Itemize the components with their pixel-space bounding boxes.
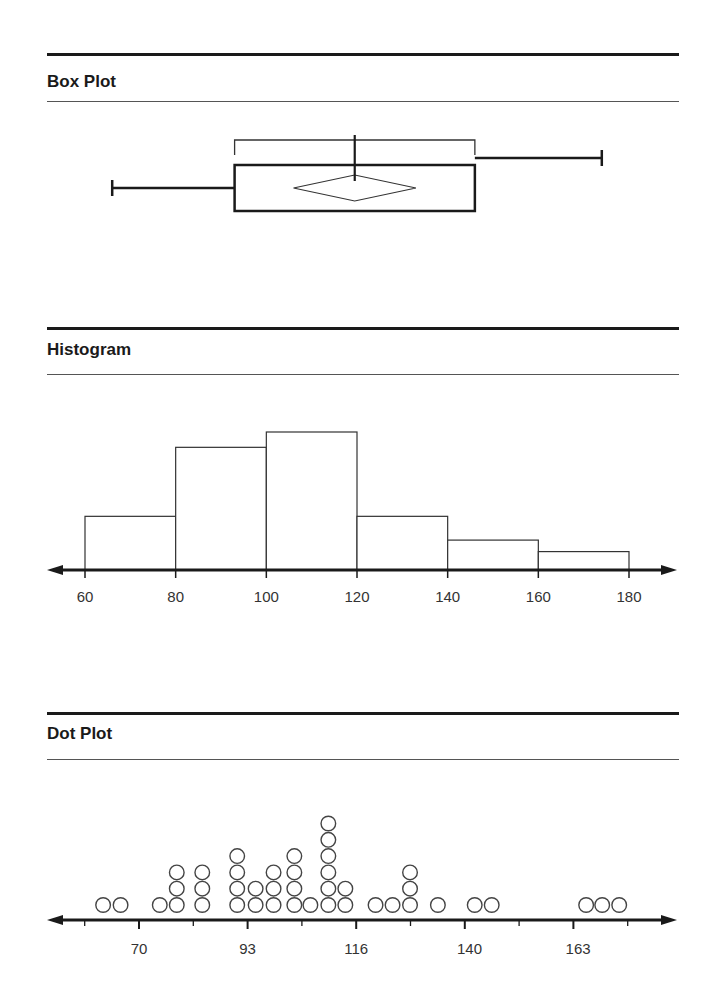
data-dot: [612, 898, 627, 913]
data-dot: [431, 898, 446, 913]
dot-plot-chart: 7093116140163: [47, 0, 687, 1004]
data-dot: [169, 865, 184, 880]
data-dot: [266, 865, 281, 880]
x-tick-label: 93: [239, 940, 256, 957]
x-tick-label: 116: [344, 940, 368, 957]
data-dot: [321, 816, 336, 831]
data-dot: [96, 898, 111, 913]
dot-plot-section: Dot Plot 7093116140163: [47, 0, 679, 1004]
data-dot: [195, 898, 210, 913]
data-dot: [113, 898, 128, 913]
data-dot: [230, 865, 245, 880]
data-dot: [195, 881, 210, 896]
data-dot: [403, 881, 418, 896]
data-dot: [368, 898, 383, 913]
axis-right-arrow-icon: [661, 915, 677, 925]
data-dot: [595, 898, 610, 913]
data-dot: [579, 898, 594, 913]
data-dot: [385, 898, 400, 913]
data-dot: [338, 881, 353, 896]
data-dot: [321, 849, 336, 864]
data-dot: [169, 898, 184, 913]
data-dot: [287, 865, 302, 880]
data-dot: [303, 898, 318, 913]
data-dot: [338, 898, 353, 913]
data-dot: [467, 898, 482, 913]
x-tick-label: 70: [131, 940, 148, 957]
data-dot: [169, 881, 184, 896]
data-dot: [321, 833, 336, 848]
data-dot: [321, 865, 336, 880]
data-dot: [230, 898, 245, 913]
data-dot: [321, 881, 336, 896]
data-dot: [484, 898, 499, 913]
data-dot: [230, 881, 245, 896]
x-tick-label: 140: [457, 940, 482, 957]
data-dot: [403, 865, 418, 880]
data-dot: [287, 881, 302, 896]
x-tick-label: 163: [566, 940, 591, 957]
data-dot: [287, 898, 302, 913]
data-dot: [195, 865, 210, 880]
axis-left-arrow-icon: [47, 915, 63, 925]
data-dot: [266, 898, 281, 913]
data-dot: [266, 881, 281, 896]
data-dot: [230, 849, 245, 864]
data-dot: [248, 898, 263, 913]
data-dot: [287, 849, 302, 864]
data-dot: [248, 881, 263, 896]
data-dot: [152, 898, 167, 913]
data-dot: [321, 898, 336, 913]
data-dot: [403, 898, 418, 913]
